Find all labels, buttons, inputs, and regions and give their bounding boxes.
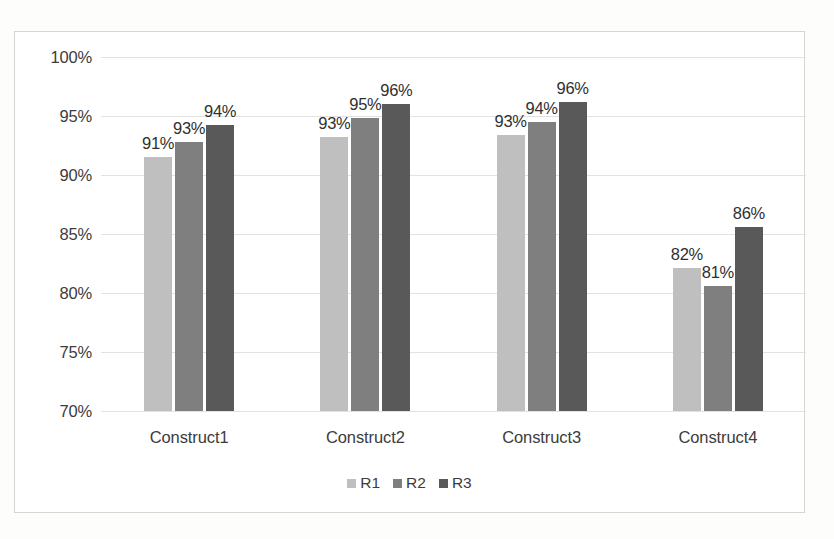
bar-value-label: 96% — [556, 79, 588, 98]
bar-r2-construct1[interactable]: 93% — [175, 142, 203, 411]
bar-r3-construct4[interactable]: 86% — [735, 227, 763, 411]
bar-groups: 91%93%94%93%95%96%93%94%96%82%81%86% — [101, 57, 806, 411]
bar-value-label: 96% — [380, 81, 412, 100]
bar-value-label: 95% — [349, 95, 381, 114]
bar-value-label: 94% — [525, 99, 557, 118]
bar-r3-construct3[interactable]: 96% — [559, 102, 587, 411]
y-axis-tick-label: 75% — [60, 343, 92, 362]
y-axis-tick-label: 70% — [60, 402, 92, 421]
bar-group: 82%81%86% — [673, 57, 763, 411]
plot-area: 100%95%90%85%80%75%70% 91%93%94%93%95%96… — [101, 57, 806, 442]
bar-value-label: 94% — [204, 102, 236, 121]
legend-label: R3 — [452, 474, 472, 492]
category-axis: Construct1Construct2Construct3Construct4 — [101, 411, 806, 451]
category-label-construct3: Construct3 — [502, 428, 581, 447]
bar-value-label: 93% — [173, 119, 205, 138]
bar-r3-construct2[interactable]: 96% — [382, 104, 410, 411]
bar-r1-construct3[interactable]: 93% — [497, 135, 525, 411]
bar-group: 93%95%96% — [320, 57, 410, 411]
legend-item-r3[interactable]: R3 — [439, 474, 472, 492]
bar-r3-construct1[interactable]: 94% — [206, 125, 234, 411]
bar-r2-construct3[interactable]: 94% — [528, 122, 556, 411]
bar-value-label: 93% — [318, 114, 350, 133]
bar-r1-construct2[interactable]: 93% — [320, 137, 348, 411]
legend-item-r1[interactable]: R1 — [347, 474, 380, 492]
bar-group: 91%93%94% — [144, 57, 234, 411]
bar-group: 93%94%96% — [497, 57, 587, 411]
legend-swatch-icon — [347, 479, 356, 488]
y-axis-tick-label: 80% — [60, 284, 92, 303]
bar-value-label: 86% — [733, 204, 765, 223]
legend-swatch-icon — [393, 479, 402, 488]
category-label-construct4: Construct4 — [678, 428, 757, 447]
category-label-construct1: Construct1 — [150, 428, 229, 447]
category-label-construct2: Construct2 — [326, 428, 405, 447]
bar-r1-construct1[interactable]: 91% — [144, 157, 172, 411]
bar-value-label: 91% — [142, 134, 174, 153]
bar-value-label: 93% — [494, 112, 526, 131]
chart-legend: R1R2R3 — [15, 474, 804, 492]
legend-item-r2[interactable]: R2 — [393, 474, 426, 492]
bar-r1-construct4[interactable]: 82% — [673, 268, 701, 411]
chart-area: 100%95%90%85%80%75%70% 91%93%94%93%95%96… — [14, 31, 805, 513]
bar-r2-construct4[interactable]: 81% — [704, 286, 732, 411]
y-axis-tick-label: 85% — [60, 225, 92, 244]
bar-r2-construct2[interactable]: 95% — [351, 118, 379, 411]
scanned-page: 100%95%90%85%80%75%70% 91%93%94%93%95%96… — [0, 0, 834, 539]
caption-sliver — [22, 527, 812, 537]
bar-value-label: 81% — [702, 263, 734, 282]
y-axis-tick-label: 100% — [51, 48, 92, 67]
y-axis-tick-label: 95% — [60, 107, 92, 126]
legend-label: R2 — [406, 474, 426, 492]
legend-swatch-icon — [439, 479, 448, 488]
bar-value-label: 82% — [671, 245, 703, 264]
legend-label: R1 — [360, 474, 380, 492]
y-axis-tick-label: 90% — [60, 166, 92, 185]
